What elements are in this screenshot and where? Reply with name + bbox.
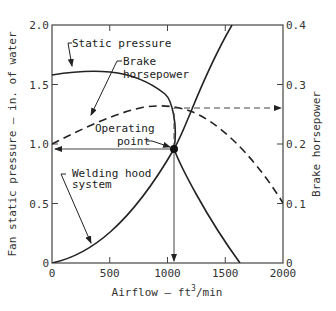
svg-text:1.0: 1.0	[29, 138, 49, 151]
svg-text:1000: 1000	[154, 267, 181, 280]
svg-text:1500: 1500	[212, 267, 239, 280]
svg-text:1.5: 1.5	[29, 79, 49, 92]
svg-text:0.2: 0.2	[286, 138, 306, 151]
svg-text:0.4: 0.4	[286, 19, 306, 32]
x-axis-title: Airflow — ft3/min	[112, 284, 223, 299]
x-tick-labels: 0 500 1000 1500 2000	[49, 267, 297, 280]
annotation-operating-point: Operating point	[95, 122, 170, 148]
y-axis-title-left: Fan static pressure — in. of water	[6, 31, 19, 257]
svg-text:0: 0	[286, 257, 293, 270]
y-tick-labels-left: 0 0.5 1.0 1.5 2.0	[29, 19, 49, 270]
svg-text:500: 500	[100, 267, 120, 280]
svg-text:Static pressure: Static pressure	[72, 37, 171, 50]
annotation-welding-hood-system: Welding hood system	[61, 167, 151, 243]
plot-frame	[52, 25, 283, 263]
y-axis-title-right: Brake horsepower	[310, 91, 323, 197]
svg-text:0: 0	[49, 267, 56, 280]
svg-text:0: 0	[42, 257, 49, 270]
svg-text:0.1: 0.1	[286, 198, 306, 211]
svg-text:Brake: Brake	[123, 55, 156, 68]
y-axis-right	[277, 85, 283, 204]
operating-point-marker	[170, 145, 178, 153]
svg-text:system: system	[72, 178, 112, 191]
svg-text:0.5: 0.5	[29, 198, 49, 211]
svg-text:2.0: 2.0	[29, 19, 49, 32]
svg-text:horsepower: horsepower	[123, 68, 190, 81]
svg-text:0.3: 0.3	[286, 79, 306, 92]
y-tick-labels-right: 0 0.1 0.2 0.3 0.4	[286, 19, 306, 270]
svg-text:point: point	[117, 135, 150, 148]
annotation-brake-horsepower: Brake horsepower	[91, 55, 190, 115]
svg-text:Operating: Operating	[95, 122, 155, 135]
fan-curve-chart: 0 500 1000 1500 2000 0 0.5 1.0 1.5 2.0 0…	[0, 0, 336, 311]
